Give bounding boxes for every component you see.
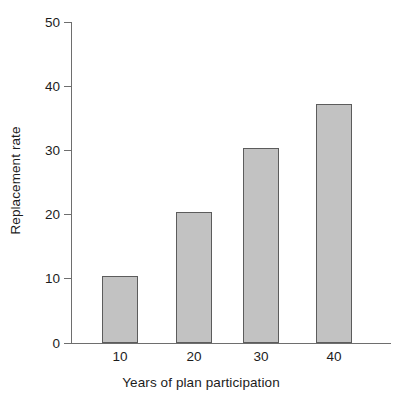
- x-tick-label-20: 20: [164, 349, 224, 364]
- y-axis-title: Replacement rate: [0, 0, 30, 360]
- bar-30: [243, 148, 279, 343]
- y-tick-label-50: 50: [2, 15, 60, 30]
- y-tick-label-20: 20: [2, 207, 60, 222]
- bar-40: [316, 104, 352, 343]
- x-tick-label-40: 40: [304, 349, 364, 364]
- plot-area: [71, 22, 391, 343]
- y-tick-label-40: 40: [2, 79, 60, 94]
- x-axis-line: [71, 343, 391, 344]
- x-tick-label-30: 30: [231, 349, 291, 364]
- y-tick-label-30: 30: [2, 143, 60, 158]
- y-tick-label-10: 10: [2, 271, 60, 286]
- x-tick-label-10: 10: [90, 349, 150, 364]
- bar-chart: Replacement rate 50 40 30 20 10 0 10 20 …: [0, 0, 402, 405]
- x-axis-title: Years of plan participation: [0, 375, 402, 390]
- bar-20: [176, 212, 212, 343]
- bar-10: [102, 276, 138, 343]
- y-tick-label-0: 0: [2, 336, 60, 351]
